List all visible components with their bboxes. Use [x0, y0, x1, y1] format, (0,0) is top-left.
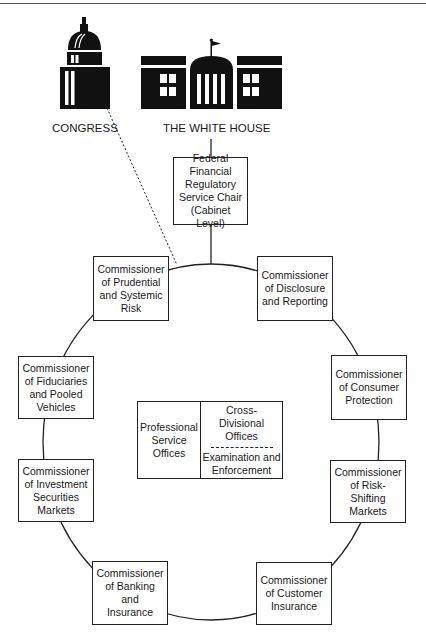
- chair-line: Regulatory: [176, 178, 245, 191]
- box-line: of Risk-: [334, 479, 401, 492]
- chair-line: Service Chair: [176, 191, 245, 204]
- box-line: of Banking and: [95, 580, 165, 606]
- box-line: Offices: [140, 447, 198, 460]
- white-house-label: THE WHITE HOUSE: [163, 122, 270, 134]
- chair-line: (Cabinet Level): [176, 204, 245, 230]
- box-line: Commissioner: [335, 368, 402, 381]
- cross-divisional-offices: Cross- Divisional Offices Examination an…: [201, 402, 282, 478]
- box-line: Divisional: [219, 417, 264, 430]
- commissioner-investment-box: Commissioner of Investment Securities Ma…: [18, 459, 94, 522]
- chair-box: Federal Financial Regulatory Service Cha…: [173, 157, 248, 225]
- dashed-divider: [211, 447, 273, 448]
- box-line: and Reporting: [261, 295, 328, 308]
- congress-label: CONGRESS: [52, 122, 118, 134]
- commissioner-disclosure-box: Commissioner of Disclosure and Reporting: [257, 256, 333, 321]
- chair-line: Federal: [176, 152, 245, 165]
- commissioner-fiduciaries-box: Commissioner of Fiduciaries and Pooled V…: [18, 356, 94, 419]
- box-line: Enforcement: [212, 464, 272, 477]
- box-line: and Pooled: [22, 388, 89, 401]
- box-line: Markets: [22, 504, 89, 517]
- box-line: Risk: [97, 302, 164, 315]
- box-line: Commissioner: [97, 263, 164, 276]
- box-line: Commissioner: [95, 567, 165, 580]
- box-line: Shifting: [334, 492, 401, 505]
- box-line: Commissioner: [22, 465, 89, 478]
- commissioner-prudential-box: Commissioner of Prudential and Systemic …: [93, 256, 169, 321]
- box-line: Cross-: [226, 404, 257, 417]
- box-line: Markets: [334, 505, 401, 518]
- professional-service-offices: Professional Service Offices: [138, 402, 201, 478]
- box-line: of Consumer: [335, 381, 402, 394]
- box-line: Service: [140, 434, 198, 447]
- box-line: Vehicles: [22, 401, 89, 414]
- box-line: of Fiduciaries: [22, 375, 89, 388]
- box-line: Offices: [225, 430, 257, 443]
- commissioner-risk-shifting-box: Commissioner of Risk- Shifting Markets: [330, 460, 406, 523]
- chair-line: Financial: [176, 165, 245, 178]
- commissioner-consumer-box: Commissioner of Consumer Protection: [331, 355, 407, 420]
- commissioner-customer-insurance-box: Commissioner of Customer Insurance: [256, 562, 332, 625]
- box-line: Insurance: [95, 606, 165, 619]
- commissioner-banking-box: Commissioner of Banking and Insurance: [92, 561, 168, 625]
- box-line: Insurance: [260, 600, 327, 613]
- box-line: Protection: [335, 394, 402, 407]
- org-chart-connectors: [0, 0, 426, 643]
- box-line: of Prudential: [97, 276, 164, 289]
- box-line: of Disclosure: [261, 282, 328, 295]
- box-line: Commissioner: [22, 362, 89, 375]
- central-offices-box: Professional Service Offices Cross- Divi…: [137, 401, 283, 479]
- box-line: and Systemic: [97, 289, 164, 302]
- box-line: Commissioner: [260, 574, 327, 587]
- box-line: Securities: [22, 491, 89, 504]
- capitol-building-icon: [60, 17, 110, 109]
- box-line: of Customer: [260, 587, 327, 600]
- box-line: Examination and: [202, 451, 280, 464]
- box-line: Professional: [140, 421, 198, 434]
- box-line: Commissioner: [334, 466, 401, 479]
- box-line: of Investment: [22, 478, 89, 491]
- box-line: Commissioner: [261, 269, 328, 282]
- white-house-icon: [141, 38, 282, 109]
